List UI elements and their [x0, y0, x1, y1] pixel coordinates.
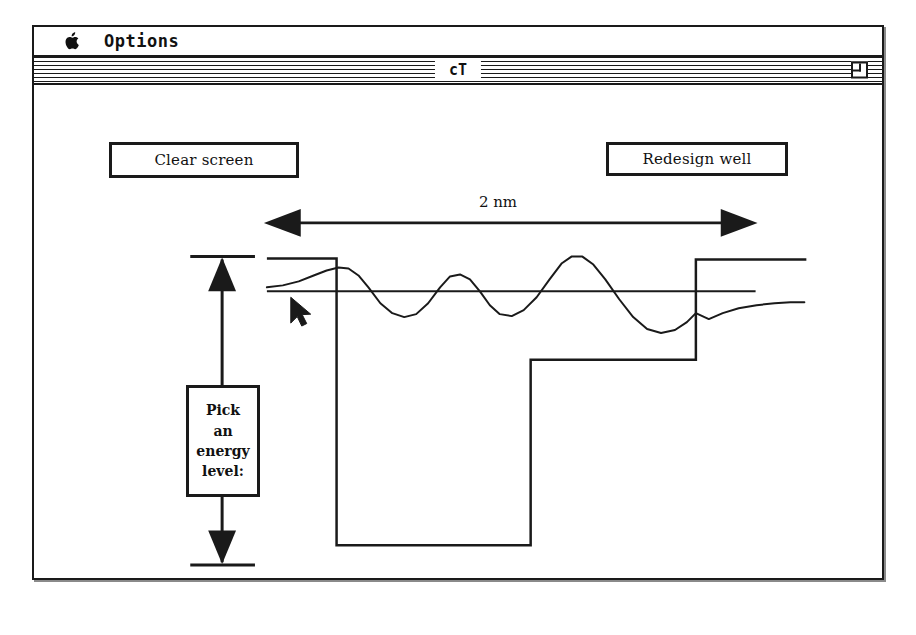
mac-window: Options cT Clear screen Redesign well 2 … — [32, 25, 884, 580]
wavefunction-curve — [267, 257, 804, 333]
picker-line-4: level: — [202, 461, 244, 481]
picker-line-2: an — [213, 421, 232, 441]
potential-well-curve — [267, 259, 806, 546]
window-title: cT — [435, 60, 481, 81]
quantum-well-plot — [34, 85, 882, 578]
mouse-pointer-icon — [291, 297, 311, 326]
apple-icon[interactable] — [64, 32, 80, 50]
window-content: Clear screen Redesign well 2 nm Pick an … — [34, 85, 882, 578]
title-bar[interactable]: cT — [34, 57, 882, 85]
menu-item-options[interactable]: Options — [104, 33, 179, 50]
zoom-box-icon[interactable] — [851, 62, 868, 79]
double-arrow-horizontal-icon — [264, 209, 758, 237]
menu-bar: Options — [34, 27, 882, 57]
picker-line-3: energy — [196, 441, 249, 461]
pick-energy-level-box[interactable]: Pick an energy level: — [186, 385, 260, 497]
picker-line-1: Pick — [206, 400, 240, 420]
